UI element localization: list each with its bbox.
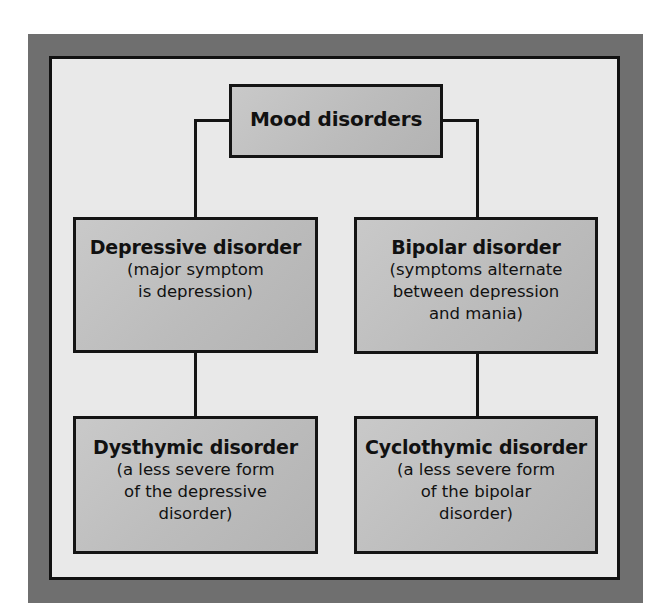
node-cyclothymic-disorder: Cyclothymic disorder (a less severe form… [354, 416, 598, 554]
node-description-line: of the bipolar [357, 481, 595, 503]
node-title: Depressive disorder [76, 235, 315, 259]
node-description-line: is depression) [76, 281, 315, 303]
node-description-line: (a less severe form [76, 459, 315, 481]
node-bipolar-disorder: Bipolar disorder (symptoms alternate bet… [354, 217, 598, 354]
node-depressive-disorder: Depressive disorder (major symptom is de… [73, 217, 318, 353]
node-description-line: (major symptom [76, 259, 315, 281]
node-description-line: and mania) [357, 303, 595, 325]
node-description-line: (symptoms alternate [357, 259, 595, 281]
node-description-line: disorder) [357, 503, 595, 525]
connector-root-left-vertical [194, 119, 197, 218]
connector-depressive-dysthymic [194, 352, 197, 417]
node-description-line: (a less severe form [357, 459, 595, 481]
node-title: Bipolar disorder [357, 235, 595, 259]
connector-root-right-vertical [476, 119, 479, 218]
node-description-line: between depression [357, 281, 595, 303]
node-description-line: disorder) [76, 503, 315, 525]
node-title: Cyclothymic disorder [357, 435, 595, 459]
node-title: Mood disorders [232, 107, 440, 131]
connector-bipolar-cyclothymic [476, 353, 479, 417]
connector-root-left-horizontal [194, 119, 230, 122]
node-mood-disorders: Mood disorders [229, 84, 443, 158]
connector-root-right-horizontal [442, 119, 479, 122]
node-title: Dysthymic disorder [76, 435, 315, 459]
node-dysthymic-disorder: Dysthymic disorder (a less severe form o… [73, 416, 318, 554]
node-description-line: of the depressive [76, 481, 315, 503]
